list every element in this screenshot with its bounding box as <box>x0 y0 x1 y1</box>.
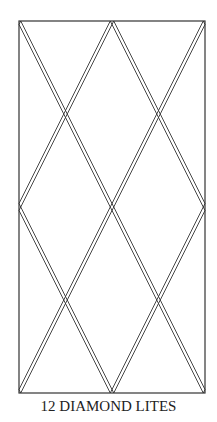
diamond-lattice <box>19 21 205 393</box>
lattice-rail <box>21 21 205 390</box>
lattice-rail <box>110 21 205 211</box>
lattice-rail <box>19 21 203 390</box>
diagram-caption: 12 DIAMOND LITES <box>0 398 217 415</box>
window-frame <box>19 21 205 393</box>
lattice-rail <box>114 211 205 394</box>
lattice-rail <box>19 25 203 394</box>
lattice-rail <box>114 21 205 204</box>
lattice-rail <box>110 204 205 394</box>
lattice-rail <box>19 21 110 204</box>
lattice-rail <box>19 211 110 394</box>
lattice-rail <box>19 204 114 394</box>
diamond-lites-diagram <box>0 0 217 422</box>
lattice-rail <box>19 21 114 211</box>
lattice-rail <box>21 25 205 394</box>
